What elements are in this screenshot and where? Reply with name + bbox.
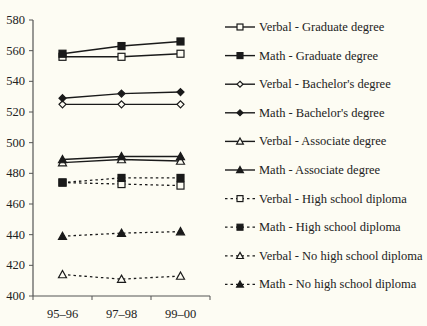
square-marker-icon <box>237 53 243 59</box>
square-marker-icon <box>177 174 184 181</box>
diamond-marker-icon <box>118 90 125 97</box>
square-marker-icon <box>118 174 125 181</box>
y-tick-label: 460 <box>6 197 25 211</box>
series-math-bachelor-s-degree <box>59 89 184 102</box>
legend-label: Verbal - Graduate degree <box>259 20 385 34</box>
series-verbal-bachelor-s-degree <box>59 101 184 108</box>
legend-item: Math - Bachelor's degree <box>225 106 385 120</box>
plot-area <box>59 38 185 282</box>
square-marker-icon <box>177 38 184 45</box>
legend-label: Verbal - No high school diploma <box>259 249 423 263</box>
triangle-marker-icon <box>237 252 244 258</box>
square-marker-icon <box>59 179 66 186</box>
legend-label: Math - Graduate degree <box>259 49 378 63</box>
diamond-marker-icon <box>59 95 66 102</box>
legend-label: Verbal - Bachelor's degree <box>259 77 391 91</box>
legend-item: Math - Graduate degree <box>225 49 378 63</box>
y-tick-label: 500 <box>6 136 25 150</box>
legend-label: Verbal - High school diploma <box>259 192 407 206</box>
y-tick-label: 440 <box>6 228 25 242</box>
legend-label: Math - Associate degree <box>259 163 381 177</box>
chart-canvas: 40042044046048050052054056058095–9697–98… <box>0 0 427 326</box>
square-marker-icon <box>118 53 125 60</box>
legend-label: Math - Bachelor's degree <box>259 106 385 120</box>
series-math-no-high-school-diploma <box>59 228 185 240</box>
legend-item: Verbal - Associate degree <box>225 134 387 148</box>
legend-label: Verbal - Associate degree <box>259 134 387 148</box>
legend: Verbal - Graduate degreeMath - Graduate … <box>225 20 423 291</box>
triangle-marker-icon <box>237 138 244 144</box>
diamond-marker-icon <box>237 81 243 87</box>
square-marker-icon <box>118 43 125 50</box>
legend-item: Verbal - Bachelor's degree <box>225 77 391 91</box>
triangle-marker-icon <box>237 281 244 287</box>
legend-item: Math - No high school diploma <box>225 277 417 291</box>
y-tick-label: 420 <box>6 258 25 272</box>
legend-item: Verbal - No high school diploma <box>225 249 423 263</box>
x-tick-label: 97–98 <box>106 307 137 321</box>
triangle-marker-icon <box>59 271 67 278</box>
legend-label: Math - High school diploma <box>259 220 401 234</box>
line-chart: 40042044046048050052054056058095–9697–98… <box>0 0 427 326</box>
y-tick-label: 480 <box>6 166 25 180</box>
y-tick-label: 520 <box>6 105 25 119</box>
diamond-marker-icon <box>237 110 243 116</box>
square-marker-icon <box>177 182 184 189</box>
legend-label: Math - No high school diploma <box>259 277 417 291</box>
y-tick-label: 540 <box>6 74 25 88</box>
triangle-marker-icon <box>177 272 185 279</box>
triangle-marker-icon <box>237 167 244 173</box>
diamond-marker-icon <box>177 101 184 108</box>
square-marker-icon <box>177 50 184 57</box>
y-tick-label: 400 <box>6 289 25 303</box>
series-verbal-no-high-school-diploma <box>59 271 185 283</box>
legend-item: Math - High school diploma <box>225 220 401 234</box>
x-tick-label: 99–00 <box>165 307 196 321</box>
y-tick-label: 560 <box>6 44 25 58</box>
triangle-marker-icon <box>177 228 185 235</box>
triangle-marker-icon <box>59 232 67 239</box>
square-marker-icon <box>237 224 243 230</box>
legend-item: Verbal - Graduate degree <box>225 20 385 34</box>
diamond-marker-icon <box>118 101 125 108</box>
square-marker-icon <box>237 24 243 30</box>
square-marker-icon <box>237 196 243 202</box>
y-tick-label: 580 <box>6 13 25 27</box>
square-marker-icon <box>59 50 66 57</box>
x-tick-label: 95–96 <box>47 307 78 321</box>
diamond-marker-icon <box>177 89 184 96</box>
legend-item: Math - Associate degree <box>225 163 381 177</box>
legend-item: Verbal - High school diploma <box>225 192 407 206</box>
